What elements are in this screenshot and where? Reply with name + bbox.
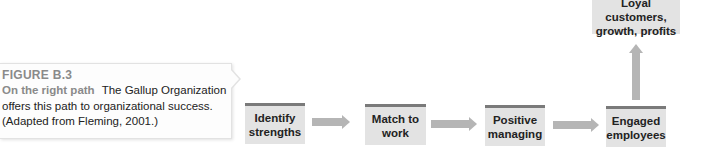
step-label: Engaged employees xyxy=(606,114,666,142)
step-match-to-work: Match to work xyxy=(365,104,426,145)
arrow-up-icon xyxy=(629,44,643,100)
step-label: Loyal customers, growth, profits xyxy=(592,0,680,38)
arrow-right-icon xyxy=(431,117,477,131)
figure-caption: On the right path The Gallup Organizatio… xyxy=(2,83,230,130)
step-label: Identify strengths xyxy=(245,111,305,139)
figure-label: FIGURE B.3 xyxy=(2,68,72,82)
callout-pointer-fill xyxy=(230,69,239,89)
step-engaged-employees: Engaged employees xyxy=(606,106,666,147)
arrow-right-icon xyxy=(553,118,599,132)
step-loyal-customers: Loyal customers, growth, profits xyxy=(592,0,680,34)
step-identify-strengths: Identify strengths xyxy=(245,103,305,144)
caption-title: On the right path xyxy=(2,84,95,96)
step-label: Match to work xyxy=(365,112,426,140)
step-positive-managing: Positive managing xyxy=(485,105,545,146)
step-label: Positive managing xyxy=(485,113,545,141)
arrow-right-icon xyxy=(312,115,350,129)
